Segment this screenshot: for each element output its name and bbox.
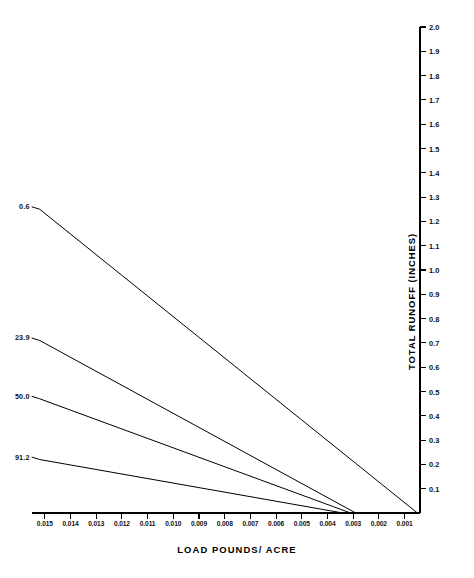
x-axis-tick-label: 0.001: [397, 520, 413, 527]
ticks-group: [45, 27, 426, 519]
chart-plot-area: [0, 0, 474, 578]
x-axis-tick-label: 0.008: [217, 520, 233, 527]
y-axis-tick-label: 2.0: [429, 23, 439, 32]
series-leader-line: [32, 457, 40, 460]
leader-lines-group: [32, 207, 40, 460]
x-axis-tick-label: 0.011: [140, 520, 156, 527]
series-line-91-2: [40, 460, 343, 513]
x-axis-tick-label: 0.007: [242, 520, 258, 527]
y-axis-tick-label: 0.9: [429, 290, 439, 299]
series-leader-line: [32, 338, 40, 341]
y-axis-tick-label: 0.8: [429, 314, 439, 323]
series-group: [40, 209, 418, 513]
x-axis-tick-label: 0.002: [371, 520, 387, 527]
y-axis-tick-label: 0.1: [429, 484, 439, 493]
x-axis-tick-label: 0.010: [165, 520, 181, 527]
x-axis-tick-label: 0.013: [88, 520, 104, 527]
series-label-50-0: 50.0: [15, 391, 30, 400]
y-axis-tick-label: 1.5: [429, 144, 439, 153]
y-axis-tick-label: 1.6: [429, 120, 439, 129]
y-axis-tick-label: 0.4: [429, 411, 439, 420]
series-label-0-6: 0.6: [19, 202, 30, 211]
series-label-23-9: 23.9: [15, 333, 30, 342]
y-axis-tick-label: 0.7: [429, 338, 439, 347]
x-axis-tick-label: 0.004: [319, 520, 335, 527]
x-axis-tick-label: 0.009: [191, 520, 207, 527]
series-leader-line: [32, 207, 40, 210]
y-axis-tick-label: 1.9: [429, 47, 439, 56]
y-axis-tick-label: 0.6: [429, 363, 439, 372]
y-axis-tick-label: 1.7: [429, 95, 439, 104]
y-axis-tick-label: 1.8: [429, 71, 439, 80]
axes-group: [32, 27, 420, 513]
series-line-50-0: [40, 399, 351, 513]
y-axis-tick-label: 1.4: [429, 168, 439, 177]
y-axis-tick-label: 1.0: [429, 266, 439, 275]
x-axis-tick-label: 0.003: [345, 520, 361, 527]
y-axis-title: TOTAL RUNOFF (INCHES): [406, 170, 417, 370]
series-leader-line: [32, 396, 40, 399]
x-axis-tick-label: 0.015: [37, 520, 53, 527]
chart-figure: 0.0150.0140.0130.0120.0110.0100.0090.008…: [0, 0, 474, 578]
x-axis-title: LOAD POUNDS/ ACRE: [0, 544, 474, 555]
y-axis-tick-label: 1.1: [429, 241, 439, 250]
x-axis-tick-label: 0.012: [114, 520, 130, 527]
series-label-91-2: 91.2: [15, 452, 30, 461]
x-axis-tick-label: 0.005: [294, 520, 310, 527]
y-axis-tick-label: 0.5: [429, 387, 439, 396]
y-axis-tick-label: 1.3: [429, 193, 439, 202]
series-line-0-6: [40, 209, 418, 513]
y-axis-tick-label: 0.2: [429, 460, 439, 469]
x-axis-tick-label: 0.006: [268, 520, 284, 527]
y-axis-tick-label: 1.2: [429, 217, 439, 226]
x-axis-tick-label: 0.014: [63, 520, 79, 527]
y-axis-tick-label: 0.3: [429, 436, 439, 445]
